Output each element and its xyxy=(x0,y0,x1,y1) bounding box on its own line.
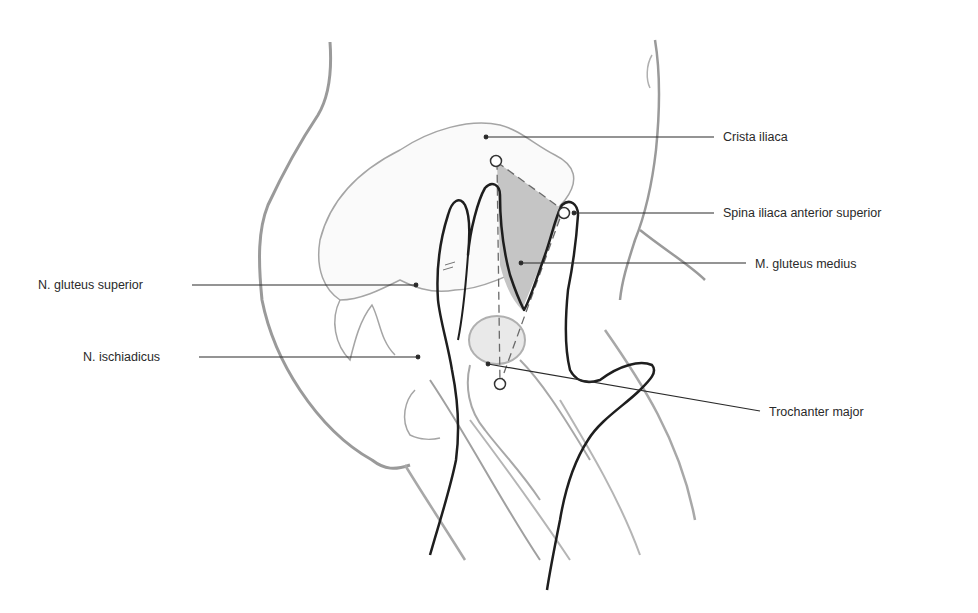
crista-iliaca-landmark xyxy=(491,156,502,167)
abdomen-outline xyxy=(620,40,659,300)
label-trochanter: Trochanter major xyxy=(769,405,864,419)
groin-outline xyxy=(640,230,705,280)
hip-anatomy-illustration xyxy=(0,0,978,613)
navel-crease xyxy=(647,55,652,88)
label-spina-iliaca: Spina iliaca anterior superior xyxy=(723,206,881,220)
thigh-back-outline xyxy=(405,465,465,560)
label-gluteus-medius: M. gluteus medius xyxy=(755,257,856,271)
ischium-outline xyxy=(335,300,395,360)
label-ischiadicus: N. ischiadicus xyxy=(83,350,160,364)
acetabulum-outline xyxy=(405,390,440,439)
trochanter-head xyxy=(469,316,525,364)
label-crista-iliaca: Crista iliaca xyxy=(723,130,788,144)
thigh-front-outline xyxy=(605,330,695,520)
femur-shaft xyxy=(468,360,590,500)
spina-iliaca-landmark xyxy=(559,208,570,219)
label-gluteus-superior: N. gluteus superior xyxy=(38,278,143,292)
trochanter-landmark xyxy=(495,379,506,390)
